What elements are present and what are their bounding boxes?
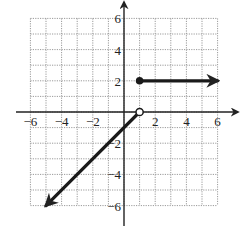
piecewise-function-graph: −6−4−2246642−2−4−6 xyxy=(0,0,245,238)
y-tick-label: −4 xyxy=(107,167,121,182)
y-tick-label: −6 xyxy=(107,199,121,214)
y-tick-label: 4 xyxy=(115,43,122,58)
open-endpoint xyxy=(136,108,143,115)
x-tick-label: 4 xyxy=(183,114,190,129)
x-tick-label: 6 xyxy=(214,114,221,129)
y-tick-label: 6 xyxy=(115,11,122,26)
x-tick-label: −2 xyxy=(86,114,100,129)
x-tick-label: 2 xyxy=(152,114,159,129)
x-tick-label: −6 xyxy=(23,114,37,129)
closed-endpoint xyxy=(136,77,144,85)
axes xyxy=(16,2,238,226)
y-tick-label: 2 xyxy=(115,74,122,89)
x-tick-label: −4 xyxy=(55,114,69,129)
